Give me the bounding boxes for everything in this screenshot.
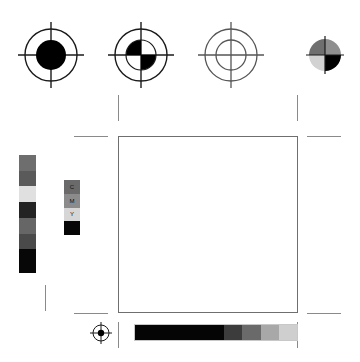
gray-step-wedge: [19, 155, 36, 273]
density-patch-4: [261, 325, 279, 340]
cmy-band-c-label: C: [70, 184, 74, 190]
wedge-step-4: [19, 202, 36, 218]
density-patch-3: [242, 325, 260, 340]
wedge-step-3: [19, 186, 36, 202]
crop-top-left-vertical: [118, 95, 119, 121]
registration-mark-quadrant: [108, 22, 174, 88]
wedge-step-1: [19, 155, 36, 171]
density-step-strip: [134, 324, 298, 341]
crop-bottom-left-vertical: [118, 322, 119, 348]
image-area-frame: [118, 136, 298, 313]
cmy-band-m-label: M: [70, 198, 75, 204]
registration-mark-solid: [18, 22, 84, 88]
cmy-band-c: C: [64, 180, 80, 194]
crop-left-upper-horizontal: [74, 136, 108, 137]
registration-mark-gray-quadrant: [302, 32, 348, 78]
wedge-step-5: [19, 218, 36, 234]
crop-top-right-vertical: [297, 95, 298, 121]
cmy-band-k: [64, 221, 80, 235]
cmy-band-y-label: Y: [70, 211, 74, 217]
wedge-step-7: [19, 249, 36, 273]
registration-mark-small: [90, 322, 112, 344]
crop-right-upper-horizontal: [307, 136, 341, 137]
registration-mark-open: [198, 22, 264, 88]
cmy-ink-patch: C M Y: [64, 180, 80, 235]
crop-left-lower-horizontal: [74, 313, 108, 314]
density-patch-2: [224, 325, 242, 340]
density-patch-5: [279, 325, 297, 340]
density-patch-1: [135, 325, 224, 340]
cmy-band-m: M: [64, 194, 80, 208]
wedge-step-6: [19, 234, 36, 250]
crop-right-lower-horizontal: [307, 313, 341, 314]
crop-wedge-left-vertical: [45, 285, 46, 311]
calibration-target-canvas: C M Y: [0, 0, 360, 362]
wedge-step-2: [19, 171, 36, 187]
cmy-band-y: Y: [64, 208, 80, 222]
